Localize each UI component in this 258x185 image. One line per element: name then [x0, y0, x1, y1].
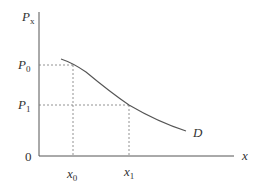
y-axis-label: Px	[22, 10, 34, 26]
origin-label: 0	[25, 150, 32, 163]
demand-curve	[61, 59, 186, 131]
p0-label-main: P	[18, 57, 26, 72]
p0-label-sub: 0	[26, 64, 31, 74]
x0-label-sub: 0	[73, 173, 78, 183]
p1-label-main: P	[18, 97, 26, 112]
curve-label: D	[193, 126, 202, 139]
x0-label: x0	[67, 167, 77, 183]
x1-label-sub: 1	[130, 171, 135, 181]
p1-label-sub: 1	[26, 104, 31, 114]
y-axis-label-main: P	[22, 9, 30, 24]
y-axis-label-sub: x	[30, 16, 35, 26]
x-axis-label: x	[242, 149, 248, 162]
x1-label: x1	[124, 165, 134, 181]
p1-label: P1	[18, 98, 30, 114]
demand-diagram	[0, 0, 258, 185]
p0-label: P0	[18, 58, 30, 74]
